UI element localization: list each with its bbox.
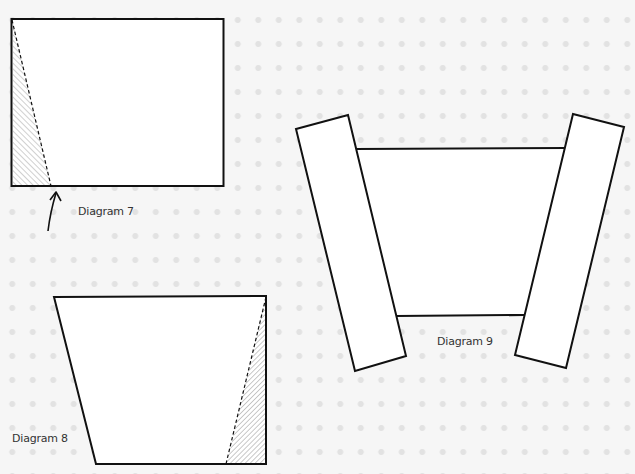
diagram-7-label: Diagram 7: [78, 205, 134, 218]
diagram-7-arrow: [48, 193, 56, 231]
diagram-9-label: Diagram 9: [437, 335, 493, 348]
diagram-9-panel-top-edge: [355, 148, 566, 149]
diagram-8-label: Diagram 8: [12, 432, 68, 445]
diagram-8: [54, 296, 266, 464]
diagram-9: [296, 114, 624, 371]
diagram-9-panel-bottom-edge: [396, 315, 524, 316]
diagram-7: [12, 19, 224, 231]
diagram-canvas: [0, 0, 635, 474]
